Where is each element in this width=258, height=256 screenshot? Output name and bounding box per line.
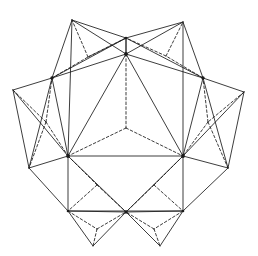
polyhedron-net-figure [0, 0, 258, 256]
vertex-dot-0 [124, 52, 128, 56]
vertex-dot-8 [125, 37, 128, 40]
vertex-dot-1 [50, 76, 53, 79]
vertex-dot-4 [181, 154, 185, 158]
diagram-background [0, 0, 258, 256]
diagram-canvas [0, 0, 258, 256]
vertex-dot-6 [67, 210, 70, 213]
vertex-dot-5 [124, 210, 127, 213]
vertex-dot-7 [182, 210, 185, 213]
vertex-dot-3 [66, 154, 70, 158]
vertex-dot-2 [201, 76, 204, 79]
